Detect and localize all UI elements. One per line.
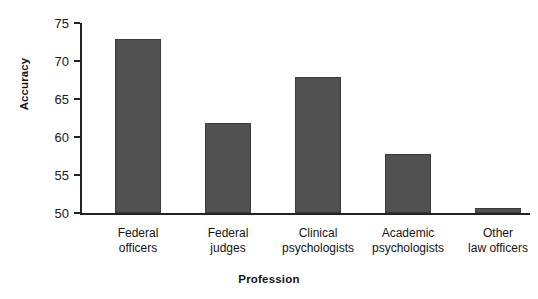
y-tick-3: 65: [74, 98, 80, 100]
x-category-label-4: Other law officers: [453, 226, 538, 256]
y-tick-4: 70: [74, 60, 80, 62]
x-category-label-4-line1: Other: [453, 226, 538, 241]
x-category-label-1-line1: Federal: [183, 226, 273, 241]
plot-area: 50 55 60 65 70 75: [80, 23, 530, 215]
x-category-label-0-line1: Federal: [93, 226, 183, 241]
y-tick-2: 60: [74, 136, 80, 138]
x-category-label-0: Federal officers: [93, 226, 183, 256]
x-category-label-3: Academic psychologists: [363, 226, 453, 256]
y-tick-label-4: 70: [55, 55, 69, 68]
y-tick-label-5: 75: [55, 17, 69, 30]
bar-clinical-psychologists: [295, 77, 341, 213]
x-category-label-3-line1: Academic: [363, 226, 453, 241]
x-axis-title: Profession: [0, 273, 538, 285]
x-category-label-1-line2: judges: [183, 241, 273, 256]
bar-academic-psychologists: [385, 154, 431, 213]
y-tick-1: 55: [74, 174, 80, 176]
x-category-label-2: Clinical psychologists: [273, 226, 363, 256]
y-tick-label-3: 65: [55, 93, 69, 106]
y-tick-label-0: 50: [55, 207, 69, 220]
y-tick-5: 75: [74, 22, 80, 24]
y-axis-line: [80, 23, 82, 215]
x-category-label-2-line1: Clinical: [273, 226, 363, 241]
x-axis-line: [80, 213, 530, 215]
bar-other-law-officers: [475, 208, 521, 213]
x-category-label-2-line2: psychologists: [273, 241, 363, 256]
x-category-label-0-line2: officers: [93, 241, 183, 256]
y-tick-label-2: 60: [55, 131, 69, 144]
x-category-label-3-line2: psychologists: [363, 241, 453, 256]
y-axis-title: Accuracy: [18, 34, 30, 134]
y-tick-0: 50: [74, 212, 80, 214]
x-category-label-1: Federal judges: [183, 226, 273, 256]
bar-chart: Accuracy 50 55 60 65 70 75 Federal: [0, 0, 538, 299]
bar-federal-judges: [205, 123, 251, 213]
bar-federal-officers: [115, 39, 161, 213]
y-tick-label-1: 55: [55, 169, 69, 182]
x-category-label-4-line2: law officers: [453, 241, 538, 256]
